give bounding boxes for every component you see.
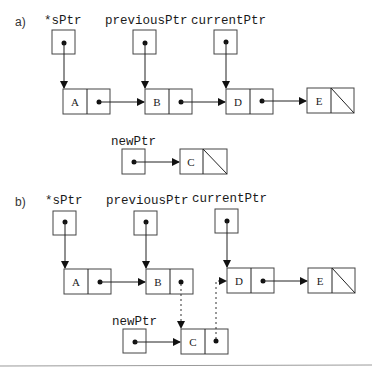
node-d-value: D [234,96,242,108]
node-d: D [227,268,307,293]
node-d: D [226,89,306,114]
node-d-value: D [235,275,243,287]
node-a-value: A [72,276,80,288]
currentptr-box [215,209,238,267]
sptr-label: *sPtr [45,194,83,208]
node-e: E [308,268,355,293]
currentptr-label: currentPtr [192,192,267,206]
node-a: A [64,269,145,294]
currentptr-box [214,30,237,88]
node-b-value: B [153,96,160,108]
sptr-label: *sPtr [44,14,82,28]
bottom-divider [0,365,372,366]
newptr-label: newPtr [112,315,157,329]
sptr-box [53,211,76,268]
node-b: B [145,89,225,114]
previousptr-label: previousPtr [106,194,189,208]
previousptr-label: previousPtr [105,14,188,28]
previousptr-box [134,211,157,268]
currentptr-label: currentPtr [191,14,266,28]
node-c-value: C [187,156,194,168]
previousptr-box [133,30,156,88]
part-a-label: a) [15,15,26,29]
linked-list-insert-diagram: a) *sPtr previousPtr currentPtr A [0,0,372,376]
part-b-label: b) [15,195,26,209]
node-a-value: A [71,96,79,108]
node-e: E [307,88,354,113]
part-a: a) *sPtr previousPtr currentPtr A [15,14,354,174]
newptr-box [122,149,179,174]
newptr-label: newPtr [111,135,156,149]
node-a: A [63,89,144,114]
node-c: C [180,149,227,174]
newptr-box [123,329,180,353]
part-b: b) *sPtr previousPtr currentPtr A [15,192,355,354]
node-e-value: E [316,95,323,107]
node-e-value: E [317,275,324,287]
node-c-value: C [189,336,196,348]
sptr-box [52,30,75,88]
node-b-value: B [154,276,161,288]
